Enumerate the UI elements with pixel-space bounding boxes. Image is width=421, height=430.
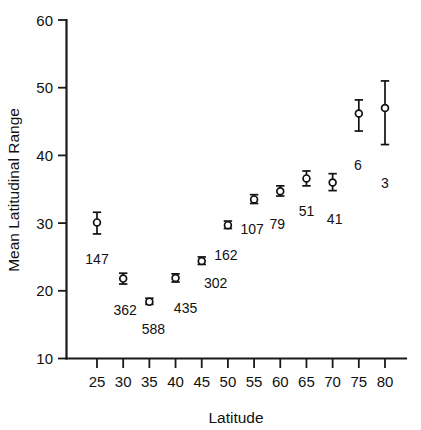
data-marker — [303, 175, 310, 182]
data-point-lat-70 — [328, 174, 336, 191]
data-marker — [94, 219, 101, 226]
x-tick-label-45: 45 — [193, 373, 210, 390]
x-tick-label-75: 75 — [350, 373, 367, 390]
data-point-lat-75 — [355, 100, 363, 131]
x-tick-label-60: 60 — [272, 373, 289, 390]
scatter-plot: 102030405060 253035404550556065707580 14… — [0, 0, 421, 430]
x-tick-label-40: 40 — [167, 373, 184, 390]
x-axis-title: Latitude — [208, 409, 263, 426]
sample-size-label-lat-50: 162 — [214, 247, 238, 263]
y-axis-tick-labels: 102030405060 — [36, 12, 53, 368]
chart-figure: 102030405060 253035404550556065707580 14… — [0, 0, 421, 430]
y-tick-label-40: 40 — [36, 147, 53, 164]
sample-size-label-lat-55: 107 — [240, 221, 264, 237]
data-marker — [355, 110, 362, 117]
sample-size-label-lat-80: 3 — [381, 175, 389, 191]
data-point-lat-25 — [93, 212, 101, 234]
sample-size-label-lat-40: 435 — [174, 300, 198, 316]
x-axis-tick-labels: 253035404550556065707580 — [89, 373, 394, 390]
data-point-lat-60 — [276, 186, 284, 196]
data-marker — [329, 179, 336, 186]
data-marker — [172, 275, 179, 282]
sample-size-label-lat-65: 51 — [299, 203, 315, 219]
x-tick-label-35: 35 — [141, 373, 158, 390]
data-marker — [120, 275, 127, 282]
sample-size-label-lat-75: 6 — [354, 157, 362, 173]
data-marker — [198, 258, 205, 265]
data-point-lat-35 — [145, 298, 153, 305]
data-point-lat-50 — [224, 221, 232, 228]
y-axis-title: Mean Latitudinal Range — [5, 108, 22, 272]
y-tick-label-10: 10 — [36, 350, 53, 367]
data-point-lat-55 — [250, 195, 258, 204]
x-tick-label-70: 70 — [324, 373, 341, 390]
y-tick-label-30: 30 — [36, 215, 53, 232]
data-point-lat-40 — [171, 274, 179, 282]
x-tick-label-30: 30 — [115, 373, 132, 390]
sample-size-label-lat-30: 362 — [114, 302, 138, 318]
x-tick-label-55: 55 — [246, 373, 263, 390]
data-marker — [382, 105, 389, 112]
data-point-lat-30 — [119, 273, 127, 284]
data-marker — [251, 196, 258, 203]
data-series-group — [93, 81, 389, 305]
data-marker — [146, 298, 153, 305]
data-marker — [277, 188, 284, 195]
x-axis-ticks — [97, 359, 385, 369]
sample-size-labels: 14736258843530216210779514163 — [85, 157, 389, 337]
data-marker — [225, 222, 232, 229]
x-tick-label-65: 65 — [298, 373, 315, 390]
data-point-lat-45 — [198, 257, 206, 264]
data-point-lat-80 — [381, 81, 389, 145]
sample-size-label-lat-35: 588 — [142, 321, 166, 337]
data-point-lat-65 — [302, 171, 310, 186]
x-tick-label-25: 25 — [89, 373, 106, 390]
x-tick-label-80: 80 — [377, 373, 394, 390]
sample-size-label-lat-25: 147 — [85, 251, 109, 267]
x-tick-label-50: 50 — [220, 373, 237, 390]
y-tick-label-60: 60 — [36, 12, 53, 29]
y-tick-label-20: 20 — [36, 282, 53, 299]
y-tick-label-50: 50 — [36, 79, 53, 96]
sample-size-label-lat-70: 41 — [327, 211, 343, 227]
y-axis-ticks — [58, 20, 67, 359]
sample-size-label-lat-45: 302 — [204, 275, 228, 291]
sample-size-label-lat-60: 79 — [269, 216, 285, 232]
